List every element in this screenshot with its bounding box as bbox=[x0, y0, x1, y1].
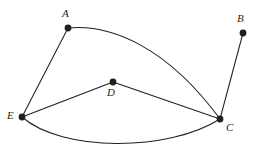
vertex-dot-E bbox=[19, 114, 26, 121]
edge-E-A bbox=[22, 28, 68, 117]
edge-E-C bbox=[22, 117, 220, 144]
vertex-label-C: C bbox=[226, 122, 233, 133]
vertex-label-E: E bbox=[7, 110, 14, 121]
vertex-dot-C bbox=[217, 116, 224, 123]
edge-A-C bbox=[68, 28, 220, 119]
vertex-dot-D bbox=[110, 79, 117, 86]
edge-D-C bbox=[113, 82, 220, 119]
vertex-label-B: B bbox=[237, 13, 244, 24]
edge-B-C bbox=[220, 33, 243, 119]
vertex-label-D: D bbox=[107, 87, 115, 98]
edge-E-D bbox=[22, 82, 113, 117]
vertex-dot-B bbox=[240, 30, 247, 37]
graph-canvas bbox=[0, 0, 256, 160]
graph-diagram: A B C D E bbox=[0, 0, 256, 160]
vertex-dot-A bbox=[65, 25, 72, 32]
vertex-label-A: A bbox=[62, 8, 69, 19]
